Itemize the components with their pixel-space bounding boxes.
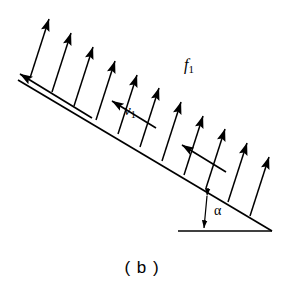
incline-main-line xyxy=(18,80,272,231)
force-vector-2 xyxy=(52,33,71,92)
velocity-label-symbol: v xyxy=(124,102,131,118)
force-vector-7 xyxy=(162,102,181,161)
force-vector-11 xyxy=(250,157,269,216)
force-vector-1 xyxy=(30,19,49,78)
force-vector-6 xyxy=(140,88,159,147)
force-vector-10 xyxy=(228,143,247,202)
figure-caption: ( b ) xyxy=(0,258,284,278)
force-vector-8 xyxy=(184,116,203,175)
angle-alpha-marker xyxy=(204,196,207,228)
figure-container: f1 v1 α ( b ) xyxy=(0,0,284,300)
force-vector-9 xyxy=(206,129,225,188)
angle-label-alpha: α xyxy=(214,204,221,218)
force-vector-4 xyxy=(96,61,115,120)
velocity-label-subscript: 1 xyxy=(131,109,136,120)
velocity-label-v1: v1 xyxy=(124,103,136,120)
force-label-subscript: 1 xyxy=(188,63,193,75)
force-vector-3 xyxy=(74,47,93,106)
inclined-plane-diagram xyxy=(0,0,284,300)
force-label-f1: f1 xyxy=(184,57,194,75)
normal-force-vector-group xyxy=(30,19,269,216)
